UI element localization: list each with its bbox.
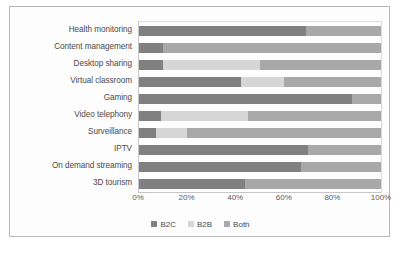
bar-segment-b2b[interactable]	[241, 77, 285, 87]
chart-figure: Health monitoringContent managementDeskt…	[9, 6, 390, 237]
legend-label: B2B	[197, 220, 212, 229]
bar-row[interactable]	[139, 39, 381, 56]
bar-segment-both[interactable]	[248, 111, 381, 121]
bar-segment-b2c[interactable]	[139, 179, 245, 189]
bar-row[interactable]	[139, 175, 381, 192]
category-axis: Health monitoringContent managementDeskt…	[14, 21, 132, 191]
bar-segment-both[interactable]	[260, 60, 381, 70]
bar-row[interactable]	[139, 124, 381, 141]
bar-segment-b2b[interactable]	[163, 60, 260, 70]
axis-tick-label: 80%	[324, 193, 340, 202]
category-label: 3D tourism	[14, 174, 132, 191]
bar-segment-b2c[interactable]	[139, 128, 156, 138]
axis-tick-label: 20%	[179, 193, 195, 202]
bar-row[interactable]	[139, 22, 381, 39]
plot-area	[138, 21, 382, 193]
legend-label: B2C	[160, 220, 176, 229]
bar-segment-both[interactable]	[245, 179, 381, 189]
category-label: IPTV	[14, 140, 132, 157]
legend-entry[interactable]: B2B	[188, 220, 212, 229]
bar-segment-b2c[interactable]	[139, 111, 161, 121]
category-label: Surveillance	[14, 123, 132, 140]
category-label: On demand streaming	[14, 157, 132, 174]
bar-segment-both[interactable]	[306, 26, 381, 36]
value-axis: 0%20%40%60%80%100%	[138, 193, 381, 207]
category-label: Desktop sharing	[14, 55, 132, 72]
bar-segment-b2c[interactable]	[139, 145, 308, 155]
bar-segment-both[interactable]	[187, 128, 381, 138]
bar-segment-b2c[interactable]	[139, 26, 306, 36]
legend-entry[interactable]: Both	[224, 220, 249, 229]
legend-entry[interactable]: B2C	[151, 220, 176, 229]
bar-row[interactable]	[139, 56, 381, 73]
axis-tick-label: 60%	[276, 193, 292, 202]
bar-row[interactable]	[139, 90, 381, 107]
bar-segment-b2b[interactable]	[161, 111, 248, 121]
legend-label: Both	[233, 220, 249, 229]
bar-segment-b2c[interactable]	[139, 94, 352, 104]
category-label: Video telephony	[14, 106, 132, 123]
bar-segment-b2c[interactable]	[139, 77, 241, 87]
bar-segment-both[interactable]	[308, 145, 381, 155]
bar-segment-b2c[interactable]	[139, 162, 301, 172]
bar-row[interactable]	[139, 107, 381, 124]
category-label: Virtual classroom	[14, 72, 132, 89]
chart-legend: B2CB2BBoth	[10, 217, 391, 231]
bar-row[interactable]	[139, 73, 381, 90]
bar-row[interactable]	[139, 158, 381, 175]
legend-swatch-icon	[188, 221, 194, 227]
axis-tick-label: 0%	[132, 193, 144, 202]
bar-segment-both[interactable]	[352, 94, 381, 104]
bar-row[interactable]	[139, 141, 381, 158]
legend-swatch-icon	[224, 221, 230, 227]
bar-segment-both[interactable]	[284, 77, 381, 87]
bar-segment-b2c[interactable]	[139, 43, 163, 53]
category-label: Health monitoring	[14, 21, 132, 38]
bar-segment-both[interactable]	[301, 162, 381, 172]
category-label: Gaming	[14, 89, 132, 106]
category-label: Content management	[14, 38, 132, 55]
bar-segment-b2b[interactable]	[156, 128, 187, 138]
bar-segment-both[interactable]	[163, 43, 381, 53]
bar-segment-b2c[interactable]	[139, 60, 163, 70]
legend-swatch-icon	[151, 221, 157, 227]
axis-tick-label: 40%	[227, 193, 243, 202]
axis-tick-label: 100%	[371, 193, 391, 202]
